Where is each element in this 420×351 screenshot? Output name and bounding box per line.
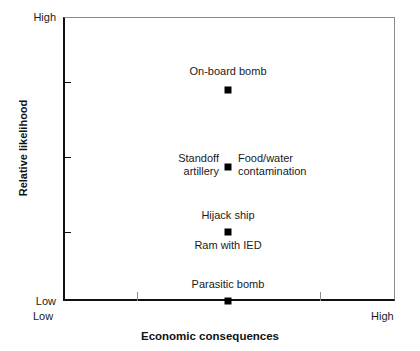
data-label-on-board-bomb: On-board bomb <box>189 65 266 78</box>
data-label-ram-with-ied: Ram with IED <box>194 239 261 252</box>
y-axis-title: Relative likelihood <box>17 78 29 218</box>
y-axis-high-label: High <box>33 11 56 23</box>
plot-area <box>63 17 395 301</box>
risk-matrix-chart: High Low Low High Relative likelihood Ec… <box>0 0 420 351</box>
food-water-line-1: Food/water <box>238 152 293 164</box>
x-axis-tick-1 <box>137 292 138 301</box>
y-axis-low-label: Low <box>36 295 56 307</box>
data-point-standoff-artillery-food-water <box>225 164 232 171</box>
y-axis-tick-1 <box>63 82 71 83</box>
food-water-line-2: contamination <box>238 165 307 177</box>
data-point-on-board-bomb <box>225 87 232 94</box>
data-point-hijack-ship-ram-with-ied <box>225 229 232 236</box>
x-axis-tick-2 <box>320 292 321 301</box>
standoff-artillery-line-1: Standoff <box>178 152 219 164</box>
data-label-parasitic-bomb: Parasitic bomb <box>192 278 265 291</box>
x-axis-title: Economic consequences <box>0 330 420 342</box>
y-axis-tick-3 <box>63 232 71 233</box>
standoff-artillery-line-2: artillery <box>184 165 219 177</box>
data-label-standoff-artillery: Standoffartillery <box>178 152 219 178</box>
data-point-parasitic-bomb <box>225 298 232 305</box>
x-axis-high-label: High <box>371 310 394 322</box>
data-label-food-water-contamination: Food/watercontamination <box>238 152 307 178</box>
y-axis-tick-2 <box>63 157 71 158</box>
x-axis-low-label: Low <box>33 310 53 322</box>
data-label-hijack-ship: Hijack ship <box>201 209 254 222</box>
